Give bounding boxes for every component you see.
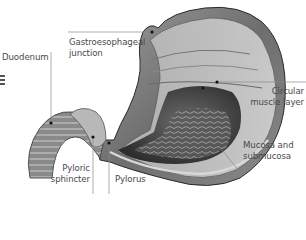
label-duodenum: Duodenum: [2, 52, 49, 63]
label-pyloric-sphincter: Pyloric sphincter: [50, 163, 90, 184]
label-circular-muscle-layer: Circular muscle layer: [250, 86, 304, 107]
label-pylorus: Pylorus: [115, 174, 146, 185]
label-mucosa-submucosa: Mucosa and submucosa: [243, 140, 294, 161]
label-gastroesophageal-junction: Gastroesophageal junction: [69, 37, 145, 58]
